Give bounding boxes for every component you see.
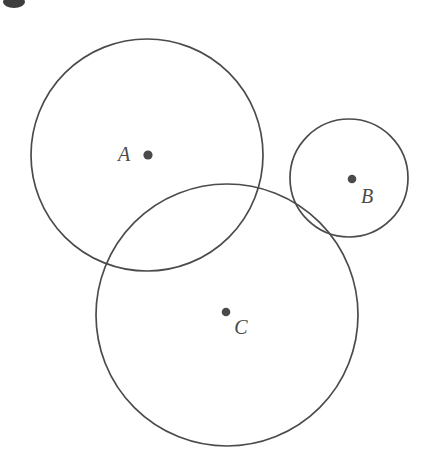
figure-canvas: A B C: [0, 0, 422, 458]
circle-a-label: A: [116, 143, 131, 165]
figure-background: [0, 0, 422, 458]
circle-b-label: B: [361, 185, 373, 207]
circle-b-center-dot[interactable]: [348, 175, 357, 184]
geometry-figure: A B C: [0, 0, 422, 458]
circle-a-center-dot[interactable]: [143, 150, 152, 159]
circle-c-label: C: [234, 316, 248, 338]
circle-c-center-dot[interactable]: [222, 308, 231, 317]
